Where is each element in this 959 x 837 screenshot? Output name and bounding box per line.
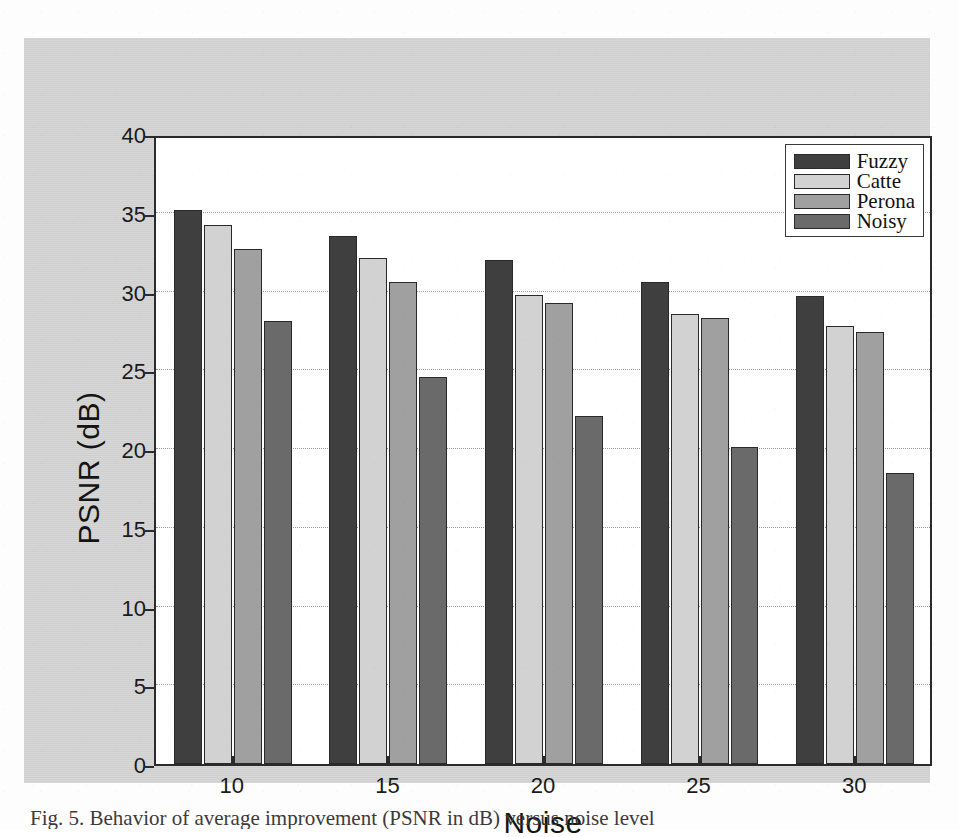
legend-item: Noisy <box>794 211 915 231</box>
bar <box>731 447 759 764</box>
bar <box>796 296 824 764</box>
x-axis-tick-label: 10 <box>220 773 244 799</box>
bar <box>264 321 292 764</box>
legend-swatch-icon <box>794 194 850 209</box>
bar <box>389 282 417 764</box>
bar <box>886 473 914 764</box>
bar <box>359 258 387 764</box>
bar <box>174 210 202 764</box>
y-axis-tick-mark <box>145 372 154 374</box>
y-axis-tick-label: 40 <box>74 125 146 147</box>
y-axis-tick-label: 35 <box>74 204 146 226</box>
bar <box>329 236 357 764</box>
y-axis-tick-mark <box>145 766 154 768</box>
bar <box>485 260 513 764</box>
y-axis-tick-mark <box>145 215 154 217</box>
bar <box>234 249 262 764</box>
bar <box>856 332 884 764</box>
x-axis-tick-mark <box>387 756 389 766</box>
legend-item: Fuzzy <box>794 151 915 171</box>
x-axis-tick-mark <box>699 756 701 766</box>
x-axis-tick-label: 30 <box>842 773 866 799</box>
x-axis-tick-label: 25 <box>686 773 710 799</box>
bar <box>575 416 603 764</box>
y-axis-tick-label: 5 <box>74 676 146 698</box>
x-axis-tick-mark <box>854 756 856 766</box>
y-axis-title: PSNR (dB) <box>72 268 106 668</box>
chart-legend: FuzzyCattePeronaNoisy <box>785 144 924 237</box>
plot-area: FuzzyCattePeronaNoisy <box>154 136 932 766</box>
y-axis-tick-label: 0 <box>74 755 146 777</box>
bar <box>515 295 543 764</box>
bar <box>419 377 447 764</box>
y-axis-tick-mark <box>145 530 154 532</box>
y-axis-tick-mark <box>145 451 154 453</box>
legend-swatch-icon <box>794 154 850 169</box>
bar <box>204 225 232 764</box>
x-axis-tick-mark <box>232 756 234 766</box>
legend-swatch-icon <box>794 214 850 229</box>
x-axis-tick-mark <box>543 756 545 766</box>
y-axis-tick-mark <box>145 687 154 689</box>
bar <box>641 282 669 764</box>
x-axis-tick-label: 20 <box>531 773 555 799</box>
bar <box>671 314 699 764</box>
figure-caption: Fig. 5. Behavior of average improvement … <box>30 806 930 829</box>
y-axis-tick-mark <box>145 136 154 138</box>
bar <box>545 303 573 764</box>
y-axis-tick-mark <box>145 609 154 611</box>
bar <box>701 318 729 764</box>
bar <box>826 326 854 764</box>
legend-label: Noisy <box>857 211 907 232</box>
y-axis-tick-mark <box>145 294 154 296</box>
legend-item: Catte <box>794 171 915 191</box>
gridline <box>156 291 930 292</box>
legend-item: Perona <box>794 191 915 211</box>
figure-panel: 0510152025303540 FuzzyCattePeronaNoisy 1… <box>24 38 930 783</box>
legend-swatch-icon <box>794 174 850 189</box>
x-axis-tick-label: 15 <box>375 773 399 799</box>
